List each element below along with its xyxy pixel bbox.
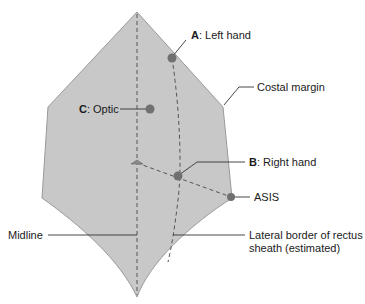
- label-port-c: C: Optic: [79, 103, 119, 116]
- label-midline: Midline: [8, 229, 43, 242]
- leader-costal: [224, 87, 254, 105]
- asis-dot: [227, 193, 235, 201]
- port-b-text: : Right hand: [257, 156, 316, 168]
- port-a-letter: A: [191, 29, 199, 41]
- label-port-a: A: Left hand: [191, 29, 251, 42]
- port-a-dot[interactable]: [168, 54, 177, 63]
- label-lateral-border: Lateral border of rectus sheath (estimat…: [249, 229, 363, 255]
- label-asis: ASIS: [254, 191, 279, 204]
- label-costal-margin: Costal margin: [257, 81, 325, 94]
- abdomen-diagram: [0, 0, 365, 304]
- port-a-text: : Left hand: [199, 29, 251, 41]
- port-b-dot[interactable]: [174, 172, 183, 181]
- port-c-letter: C: [79, 103, 87, 115]
- port-c-text: : Optic: [87, 103, 119, 115]
- label-port-b: B: Right hand: [249, 156, 316, 169]
- lateral-border-line1: Lateral border of rectus: [249, 229, 363, 242]
- port-b-letter: B: [249, 156, 257, 168]
- lateral-border-line2: sheath (estimated): [249, 242, 363, 255]
- port-c-dot[interactable]: [146, 105, 155, 114]
